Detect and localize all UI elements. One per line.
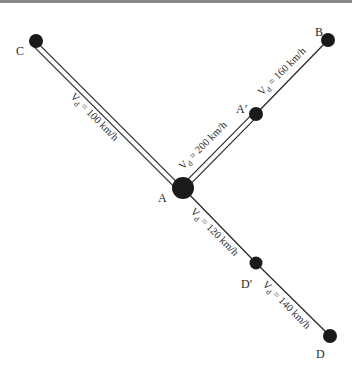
network-diagram: A A′ B C D′ D Vd = 100 km/h Vd = 200 km/… <box>0 0 352 373</box>
speed-label-aprime-b: Vd = 160 km/h <box>256 45 311 100</box>
node-b <box>321 33 335 47</box>
speed-label-a-aprime: Vd = 200 km/h <box>177 119 232 174</box>
node-d-prime <box>250 257 263 270</box>
label-node-a-prime: A′ <box>236 102 248 116</box>
node-a <box>172 177 194 199</box>
speed-label-a-dprime: Vd = 120 km/h <box>186 206 241 261</box>
speed-label-dprime-d: Vd = 140 km/h <box>258 279 313 334</box>
label-node-c: C <box>16 44 24 58</box>
edge-dprime-d <box>256 263 330 336</box>
edge-a-dprime <box>183 188 256 263</box>
label-node-a: A <box>158 191 167 205</box>
node-c <box>29 34 43 48</box>
label-node-d: D <box>316 347 325 361</box>
edge-aprime-b <box>256 40 328 114</box>
label-node-d-prime: D′ <box>241 277 253 291</box>
edge-c-a <box>32 41 183 192</box>
label-node-b: B <box>315 25 323 39</box>
node-d <box>323 329 337 343</box>
node-a-prime <box>249 107 263 121</box>
